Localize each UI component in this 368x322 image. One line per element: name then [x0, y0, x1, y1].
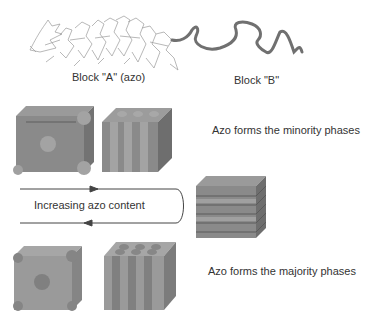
block-b-label: Block "B": [234, 74, 279, 86]
cube-cylinders-minority: [102, 108, 172, 172]
arrow-label: Increasing azo content: [34, 199, 145, 211]
block-a-label: Block "A" (azo): [72, 71, 145, 83]
block-b-chain: [172, 22, 302, 53]
cube-lamellae: [196, 176, 266, 238]
cube-spheres-majority: [13, 246, 82, 311]
cube-spheres-minority: [13, 106, 94, 175]
minority-phase-label: Azo forms the minority phases: [212, 124, 360, 136]
cube-cylinders-majority: [104, 242, 176, 310]
block-a-azo-chain: [30, 16, 178, 70]
majority-phase-label: Azo forms the majority phases: [208, 265, 356, 277]
diagram-root: Block "A" (azo) Block "B" Azo forms the …: [0, 0, 368, 322]
